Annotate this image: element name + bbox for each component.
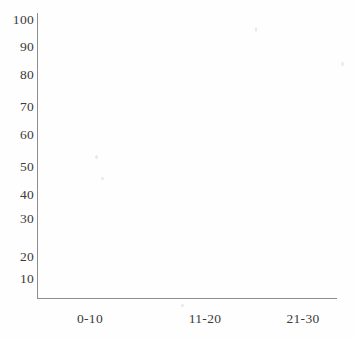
y-tick-label: 80 — [0, 68, 34, 81]
scan-speckle — [181, 304, 184, 307]
y-tick-label: 50 — [0, 160, 34, 173]
chart-figure: 100908070605040302010 0-1011-2021-30 — [0, 0, 356, 339]
x-tick-label: 11-20 — [165, 312, 245, 326]
y-axis-line — [37, 13, 38, 299]
y-tick-label: 70 — [0, 100, 34, 113]
plot-area — [38, 13, 337, 298]
y-tick-label: 100 — [0, 13, 34, 26]
x-tick-label: 0-10 — [50, 312, 130, 326]
x-tick-label: 21-30 — [263, 312, 343, 326]
y-tick-label: 20 — [0, 250, 34, 263]
y-tick-label: 60 — [0, 128, 34, 141]
scan-speckle — [341, 62, 344, 66]
y-tick-label: 10 — [0, 272, 34, 285]
x-axis-line — [37, 298, 337, 299]
y-tick-label: 30 — [0, 212, 34, 225]
y-tick-label: 90 — [0, 40, 34, 53]
y-tick-label: 40 — [0, 188, 34, 201]
